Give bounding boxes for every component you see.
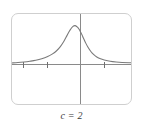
math-figure: c = 2 — [0, 0, 143, 130]
plot-frame — [11, 13, 132, 105]
figure-caption: c = 2 — [0, 110, 143, 121]
plot-canvas — [12, 14, 131, 104]
function-curve — [12, 26, 131, 63]
